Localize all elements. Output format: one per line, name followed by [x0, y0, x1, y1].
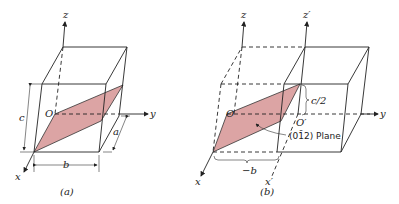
dim-neg-b-label: −b: [242, 165, 257, 176]
origin-label-a: O: [45, 108, 53, 119]
x-axis-label-a: x: [15, 171, 21, 182]
dim-c-half-label: c/2: [311, 95, 326, 106]
crystal-plane-diagram: z y x O c b a (a): [0, 0, 399, 204]
caption-a: (a): [60, 186, 74, 197]
z-axis-label-b: z: [240, 9, 247, 20]
dim-b-label: b: [63, 159, 69, 170]
dim-a-label: a: [113, 126, 119, 137]
dim-c-label: c: [19, 112, 25, 123]
figure-a: z y x O c b a (a): [15, 9, 156, 197]
origin-prime-label: O′: [296, 117, 307, 128]
z-prime-axis-label: z′: [302, 9, 311, 20]
caption-b: (b): [260, 186, 274, 197]
figure-b: z z′ y x x′ O O′ c/2 −b (01̄2) Plane (b): [195, 9, 386, 197]
y-axis-label-b: y: [379, 108, 386, 119]
x-axis-label-b: x: [195, 176, 201, 187]
plane-label: (01̄2) Plane: [289, 130, 341, 141]
z-axis-label-a: z: [62, 9, 69, 20]
y-axis-label-a: y: [149, 108, 156, 119]
origin-label-b: O: [226, 108, 234, 119]
